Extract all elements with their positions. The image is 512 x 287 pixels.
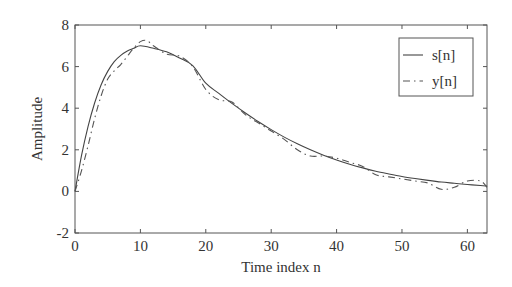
legend: s[n] y[n] xyxy=(399,38,473,96)
y-tick-label: 8 xyxy=(62,17,70,33)
x-tick-label: 0 xyxy=(71,238,79,254)
line-chart: 0102030405060-202468 s[n] y[n] Time inde… xyxy=(0,0,512,287)
legend-label-s: s[n] xyxy=(432,47,455,63)
x-tick-label: 50 xyxy=(394,238,409,254)
y-tick-label: 4 xyxy=(62,100,70,116)
x-tick-label: 40 xyxy=(329,238,344,254)
x-tick-label: 60 xyxy=(460,238,475,254)
y-tick-label: 0 xyxy=(62,183,70,199)
y-tick-label: 2 xyxy=(62,142,70,158)
x-tick-label: 30 xyxy=(264,238,279,254)
legend-label-y: y[n] xyxy=(432,73,457,89)
y-axis-label: Amplitude xyxy=(29,97,45,162)
y-tick-label: -2 xyxy=(57,225,70,241)
y-tick-label: 6 xyxy=(62,59,70,75)
x-axis-label: Time index n xyxy=(241,259,321,275)
x-tick-label: 20 xyxy=(198,238,213,254)
x-tick-label: 10 xyxy=(133,238,148,254)
